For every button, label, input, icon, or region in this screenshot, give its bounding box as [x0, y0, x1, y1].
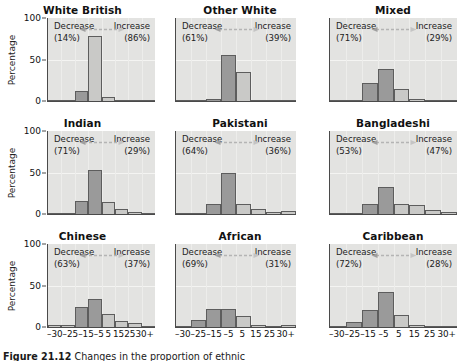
bar [394, 204, 410, 214]
bar [378, 292, 394, 327]
y-axis-label: Percentage [7, 34, 17, 85]
panel-white-british: White BritishPercentage100500Decrease(14… [0, 3, 165, 116]
bar [102, 202, 115, 214]
bar [115, 209, 128, 214]
bar [251, 325, 266, 327]
plot-area: Decrease(71%)Increase(29%) [329, 18, 457, 102]
bar [236, 316, 251, 327]
bar [330, 100, 346, 101]
bar [88, 170, 101, 214]
bar [346, 213, 362, 214]
x-tick-label: –15 [360, 329, 376, 342]
bar [115, 321, 128, 327]
x-tick-label: –5 [376, 329, 391, 342]
bar-series [330, 131, 457, 214]
bar [128, 212, 141, 214]
bar [330, 213, 346, 214]
bar [61, 325, 74, 327]
bar [191, 320, 206, 327]
bar [425, 100, 441, 101]
plot-area: Decrease(71%)Increase(29%) [47, 131, 155, 215]
y-tick-mark [42, 327, 46, 328]
bar [441, 212, 457, 214]
y-axis: Percentage100500 [6, 131, 46, 214]
y-axis: Percentage100500 [6, 18, 46, 101]
x-tick-label: –5 [222, 329, 236, 342]
panel-title: Other White [165, 4, 315, 16]
bar [61, 213, 74, 214]
bar-series [176, 244, 296, 327]
bar [221, 309, 236, 327]
panel-pakistani: PakistaniDecrease(64%)Increase(36%)–30–2… [165, 116, 315, 229]
bar [362, 83, 378, 101]
bar [251, 100, 266, 101]
bar [142, 100, 155, 101]
x-tick-label: 30+ [437, 329, 456, 342]
y-tick-label: 100 [24, 126, 41, 136]
bar [142, 326, 155, 327]
bar [206, 309, 221, 327]
plot-area: Decrease(72%)Increase(28%) [329, 244, 457, 328]
bar [409, 205, 425, 214]
bar [362, 310, 378, 327]
bar [128, 100, 141, 101]
y-axis-label: Percentage [7, 147, 17, 198]
bar [75, 307, 88, 327]
panel-mixed: MixedDecrease(71%)Increase(29%)–30–25–15… [315, 3, 471, 116]
bar [206, 99, 221, 101]
y-tick-mark [42, 59, 46, 60]
plot-area: Decrease(53%)Increase(47%) [329, 131, 457, 215]
bar [48, 213, 61, 214]
panel-title: Bangladeshi [315, 117, 471, 129]
bar [176, 326, 191, 327]
plot-area: Decrease(64%)Increase(36%) [175, 131, 296, 215]
figure-container: White BritishPercentage100500Decrease(14… [0, 0, 471, 361]
y-tick-mark [42, 101, 46, 102]
x-tick-label: –15 [78, 329, 94, 342]
y-tick-label: 0 [35, 96, 41, 106]
panel-chinese: ChinesePercentage100500Decrease(63%)Incr… [0, 229, 165, 346]
bar [346, 322, 362, 327]
panel-indian: IndianPercentage100500Decrease(71%)Incre… [0, 116, 165, 229]
bar [394, 89, 410, 101]
x-axis: –30–25–15–55152530+ [175, 329, 295, 342]
bar [191, 100, 206, 101]
bar [425, 326, 441, 327]
x-tick-label: 15 [113, 329, 124, 342]
bar-series [48, 244, 155, 327]
bar [176, 100, 191, 101]
bar [266, 100, 281, 101]
y-tick-mark [42, 244, 46, 245]
x-tick-label: 5 [235, 329, 249, 342]
bar [102, 97, 115, 101]
y-tick-mark [42, 214, 46, 215]
bar [441, 326, 457, 327]
bar-series [330, 18, 457, 101]
bar [281, 325, 296, 327]
figure-caption: Figure 21.12 Changes in the proportion o… [3, 351, 469, 361]
panel-title: African [165, 230, 315, 242]
panel-grid: White BritishPercentage100500Decrease(14… [0, 3, 471, 346]
y-tick-mark [42, 172, 46, 173]
x-tick-label: –30 [47, 329, 63, 342]
bar [281, 211, 296, 214]
x-tick-label: –5 [94, 329, 104, 342]
bar-series [48, 18, 155, 101]
x-axis: –30–25–15–55152530+ [47, 329, 154, 342]
x-tick-label: 5 [391, 329, 406, 342]
bar-series [330, 244, 457, 327]
bar [378, 187, 394, 214]
y-tick-mark [42, 131, 46, 132]
x-axis: –30–25–15–55152530+ [329, 329, 456, 342]
bar [102, 314, 115, 327]
panel-title: Caribbean [315, 230, 471, 242]
x-tick-label: 30+ [135, 329, 154, 342]
x-tick-label: –30 [175, 329, 191, 342]
bar [75, 201, 88, 214]
caption-text: Changes in the proportion of ethnic [75, 351, 245, 361]
bar [48, 100, 61, 101]
bar [409, 325, 425, 327]
y-axis-label: Percentage [7, 260, 17, 311]
x-tick-label: 30+ [276, 329, 295, 342]
y-tick-mark [42, 285, 46, 286]
